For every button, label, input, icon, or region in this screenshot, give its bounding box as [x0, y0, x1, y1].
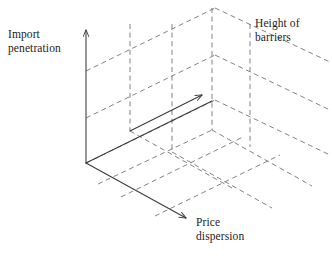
- floor-grid-ur-3: [98, 130, 212, 184]
- axis-label-height-of-barriers: Height of barriers: [255, 17, 327, 44]
- floor-grid-dr-3: [212, 130, 312, 186]
- floor-grid-ur-2: [155, 155, 280, 216]
- floor-grid-dr-2: [172, 152, 272, 208]
- interior-direction-arrow: [130, 95, 202, 131]
- grid-top-diagonal-a: [86, 8, 215, 71]
- axis-label-import-penetration: Import penetration: [8, 28, 82, 55]
- axis-height-of-barriers-edge: [86, 101, 212, 163]
- grid-low-diagonal-b: [215, 100, 330, 155]
- figure-root: Import penetration Height of barriers Pr…: [0, 0, 332, 261]
- solid-axes-group: [86, 30, 212, 218]
- axis-price-dispersion: [86, 163, 186, 218]
- floor-grid-ur-1: [121, 137, 243, 197]
- floor-grid-dr-1: [130, 131, 232, 188]
- axis-label-price-dispersion: Price dispersion: [196, 216, 286, 243]
- grid-mid-diagonal-b: [215, 55, 330, 110]
